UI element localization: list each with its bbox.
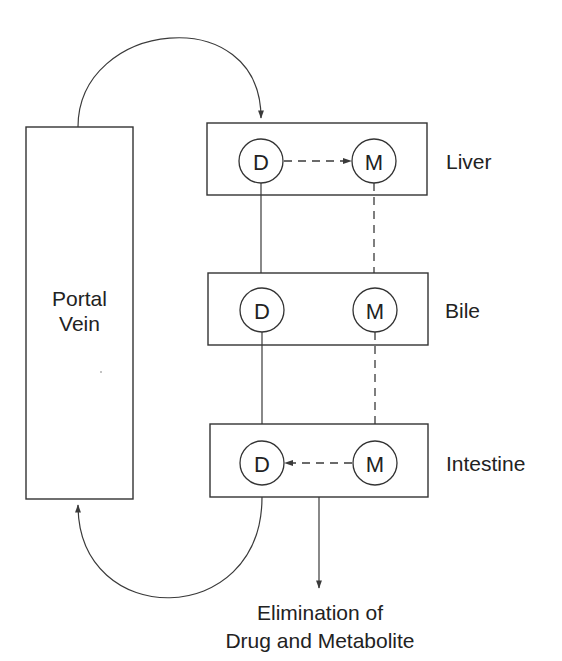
intestine-label: Intestine [446,452,525,475]
liver-metabolite-label: M [365,150,383,175]
bile-metabolite-label: M [366,299,384,324]
elimination-label-line2: Drug and Metabolite [225,629,414,652]
bile-drug-label: D [254,299,270,324]
bile-label: Bile [445,299,480,322]
speck-dot [100,371,102,373]
intestine-metabolite-label: M [366,452,384,477]
portal-vein-label-line2: Vein [59,312,100,335]
liver-drug-label: D [253,150,269,175]
intestine-drug-label: D [254,452,270,477]
liver-label: Liver [446,150,492,173]
portal-vein-box: Portal Vein [26,127,133,499]
intestine-to-portal-arrow [78,497,262,598]
liver-compartment: D M [207,123,427,195]
elimination-label-line1: Elimination of [257,601,383,624]
portal-vein-label-line1: Portal [52,287,107,310]
intestine-compartment: D M [210,424,428,497]
bile-compartment: D M [208,273,428,345]
portal-to-liver-arrow [78,38,261,127]
enterohepatic-circulation-diagram: Portal Vein D M Liver D M Bile D M Intes… [0,0,562,661]
